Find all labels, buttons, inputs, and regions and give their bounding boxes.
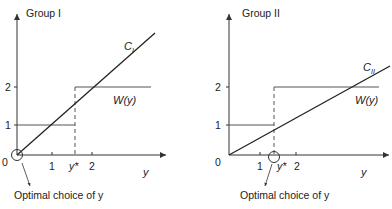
cost-line bbox=[229, 66, 390, 155]
w-label: W(y) bbox=[355, 94, 379, 106]
cost-label: CII bbox=[363, 61, 375, 75]
panel-title: Group II bbox=[242, 7, 280, 19]
annotation: Optimal choice of y bbox=[14, 189, 104, 201]
panel-group-2: Group II 1 2 0 1 y* 2 y CII W(y) Optimal… bbox=[215, 7, 390, 201]
panel-group-1: Group I 1 2 0 1 y* 2 y CI W(y) Optimal c… bbox=[2, 7, 166, 201]
x-tick-2: 2 bbox=[89, 160, 95, 172]
origin-label: 0 bbox=[2, 156, 8, 168]
x-tick-1: 1 bbox=[49, 160, 55, 172]
cost-label: CI bbox=[124, 40, 134, 54]
y-tick-2: 2 bbox=[5, 81, 11, 93]
x-axis-label: y bbox=[142, 166, 150, 178]
panel-title: Group I bbox=[26, 7, 61, 19]
y-tick-1: 1 bbox=[5, 119, 11, 131]
x-axis-label: y bbox=[360, 166, 368, 178]
w-label: W(y) bbox=[113, 94, 137, 106]
x-tick-1: 1 bbox=[257, 160, 263, 172]
x-tick-ystar: y* bbox=[68, 160, 79, 172]
x-tick-ystar: y* bbox=[276, 160, 287, 172]
y-tick-2: 2 bbox=[215, 81, 221, 93]
y-tick-1: 1 bbox=[215, 119, 221, 131]
annotation: Optimal choice of y bbox=[240, 189, 330, 201]
origin-label: 0 bbox=[215, 156, 221, 168]
diagram: Group I 1 2 0 1 y* 2 y CI W(y) Optimal c… bbox=[0, 0, 392, 209]
x-tick-2: 2 bbox=[294, 160, 300, 172]
